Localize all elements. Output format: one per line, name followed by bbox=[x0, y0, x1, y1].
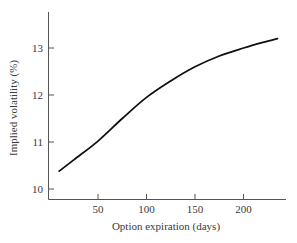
implied-volatility-curve bbox=[59, 39, 277, 172]
line-chart: 10111213 50100150200 Option expiration (… bbox=[0, 0, 297, 243]
y-tick-label: 11 bbox=[32, 136, 43, 148]
x-tick-label: 50 bbox=[93, 203, 105, 215]
y-axis: 10111213 bbox=[32, 12, 54, 200]
y-axis-title: Implied volatility (%) bbox=[7, 60, 20, 156]
y-tick-label: 13 bbox=[32, 42, 44, 54]
x-axis-title: Option expiration (days) bbox=[112, 220, 220, 233]
x-tick-label: 200 bbox=[235, 203, 252, 215]
y-tick-label: 12 bbox=[32, 89, 43, 101]
x-tick-label: 100 bbox=[138, 203, 155, 215]
x-tick-label: 150 bbox=[187, 203, 204, 215]
x-axis: 50100150200 bbox=[49, 194, 287, 215]
y-tick-label: 10 bbox=[32, 183, 44, 195]
